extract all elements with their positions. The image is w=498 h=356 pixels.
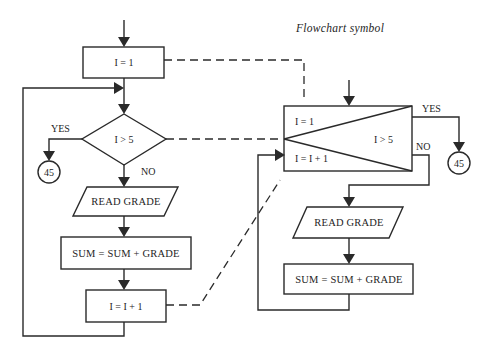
init-box: I = 1 bbox=[83, 47, 164, 78]
input-label-left: READ GRADE bbox=[91, 196, 160, 207]
entry-arrow-left bbox=[118, 20, 130, 47]
left-flowchart: I = 1 I > 5 YES 45 NO bbox=[23, 20, 191, 336]
init-box-label: I = 1 bbox=[115, 57, 134, 68]
process-label-left: SUM = SUM + GRADE bbox=[72, 248, 179, 259]
connector-circle-right: 45 bbox=[448, 152, 470, 174]
arrow-to-decision bbox=[118, 104, 130, 114]
yes-label-left: YES bbox=[51, 123, 70, 134]
dashed-init-to-symbol bbox=[164, 60, 304, 100]
connector-circle-left: 45 bbox=[38, 161, 60, 183]
input-parallelogram-left: READ GRADE bbox=[73, 187, 178, 216]
process-label-right: SUM = SUM + GRADE bbox=[295, 274, 402, 285]
decision-label: I > 5 bbox=[115, 134, 134, 145]
flowchart-diagram: Flowchart symbol I = 1 I > 5 bbox=[0, 0, 498, 356]
increment-box: I = I + 1 bbox=[86, 290, 166, 322]
loop-increment-label: I = I + 1 bbox=[295, 153, 328, 164]
increment-label: I = I + 1 bbox=[110, 301, 143, 312]
yes-branch-left: YES bbox=[43, 123, 82, 161]
loop-init-label: I = 1 bbox=[295, 116, 314, 127]
diagram-title: Flowchart symbol bbox=[295, 22, 384, 35]
yes-label-right: YES bbox=[422, 103, 441, 114]
arrow-to-sum-right bbox=[343, 254, 355, 264]
process-box-left: SUM = SUM + GRADE bbox=[61, 237, 191, 269]
connector-label-right: 45 bbox=[454, 158, 464, 169]
entry-arrow-right bbox=[343, 80, 355, 106]
no-label-left: NO bbox=[141, 166, 155, 177]
connector-label-left: 45 bbox=[44, 167, 54, 178]
decision-diamond: I > 5 bbox=[82, 114, 166, 165]
right-flowchart: I = 1 I > 5 I = I + 1 YES 45 NO READ GRA… bbox=[258, 80, 470, 310]
arrow-to-sum-left bbox=[118, 227, 130, 237]
process-box-right: SUM = SUM + GRADE bbox=[284, 264, 413, 294]
loop-symbol-box: I = 1 I > 5 I = I + 1 bbox=[284, 106, 412, 171]
input-parallelogram-right: READ GRADE bbox=[293, 207, 403, 238]
no-branch-left: NO bbox=[118, 165, 155, 187]
no-label-right: NO bbox=[416, 141, 430, 152]
arrow-to-increment bbox=[118, 280, 130, 290]
loop-test-label: I > 5 bbox=[374, 134, 393, 145]
input-label-right: READ GRADE bbox=[314, 217, 383, 228]
